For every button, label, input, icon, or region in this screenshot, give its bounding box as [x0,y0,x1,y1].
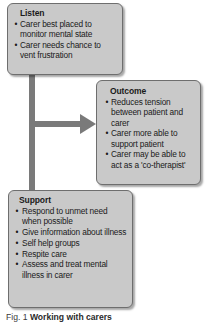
node-title-support: Support [15,195,127,206]
figure-working-with-carers: Listen •Carer best placed to monitor men… [0,0,207,324]
bullet-icon: • [16,238,19,248]
bullet-icon: • [15,40,18,50]
list-item: •Self help groups [15,238,127,248]
list-item: •Carer best placed to monitor mental sta… [14,19,117,40]
list-item-text: Self help groups [22,238,80,248]
arrow-head-icon [80,114,96,134]
arrow-stem [33,121,83,127]
list-item: •Respite care [15,249,127,259]
bullet-icon: • [16,259,19,269]
node-box-outcome[interactable]: Outcome •Reduces tension between patient… [96,80,201,185]
figure-caption: Fig. 1 Working with carers [6,312,206,323]
node-box-listen[interactable]: Listen •Carer best placed to monitor men… [7,3,123,75]
bullet-icon: • [16,206,19,216]
list-item-text: Respite care [22,249,67,259]
list-item: •Carer needs chance to vent frustration [14,40,117,61]
list-item-text: Carer needs chance to vent frustration [20,40,101,60]
node-title-outcome: Outcome [105,86,195,97]
list-item-text: Give information about illness [22,227,126,237]
list-item: •Carer may be able to act as a 'co-thera… [105,149,195,170]
list-item-text: Respond to unmet need when possible [22,206,107,226]
bullet-icon: • [106,128,109,138]
node-list-outcome: •Reduces tension between patient and car… [105,97,195,170]
list-item-text: Reduces tension between patient and care… [111,97,183,128]
figure-caption-label: Fig. 1 [6,312,28,322]
list-item: •Assess and treat mental illness in care… [15,259,127,280]
node-list-listen: •Carer best placed to monitor mental sta… [14,19,117,61]
list-item: •Reduces tension between patient and car… [105,97,195,128]
bullet-icon: • [16,249,19,259]
bullet-icon: • [106,149,109,159]
list-item-text: Carer may be able to act as a 'co-therap… [111,149,185,169]
figure-caption-text: Working with carers [30,312,112,322]
list-item-text: Carer more able to support patient [111,128,177,148]
bullet-icon: • [15,19,18,29]
node-list-support: •Respond to unmet need when possible •Gi… [15,206,127,280]
list-item: •Respond to unmet need when possible [15,206,127,227]
list-item: •Carer more able to support patient [105,128,195,149]
bullet-icon: • [16,227,19,237]
vertical-spine-line [29,74,35,192]
list-item-text: Carer best placed to monitor mental stat… [20,19,92,39]
node-title-listen: Listen [14,8,117,19]
list-item: •Give information about illness [15,227,127,237]
node-box-support[interactable]: Support •Respond to unmet need when poss… [8,190,133,308]
list-item-text: Assess and treat mental illness in carer [22,259,108,279]
bullet-icon: • [106,97,109,107]
